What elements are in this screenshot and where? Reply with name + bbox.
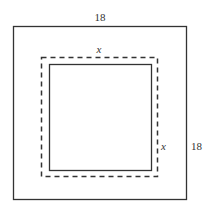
inner-square <box>50 65 152 171</box>
dashed-top-label: x <box>96 43 102 55</box>
outer-top-label: 18 <box>95 11 107 23</box>
outer-right-label: 18 <box>191 140 203 152</box>
dashed-square <box>42 58 158 177</box>
dashed-right-label: x <box>160 140 166 152</box>
nested-squares-diagram: 18 18 x x <box>0 0 208 216</box>
